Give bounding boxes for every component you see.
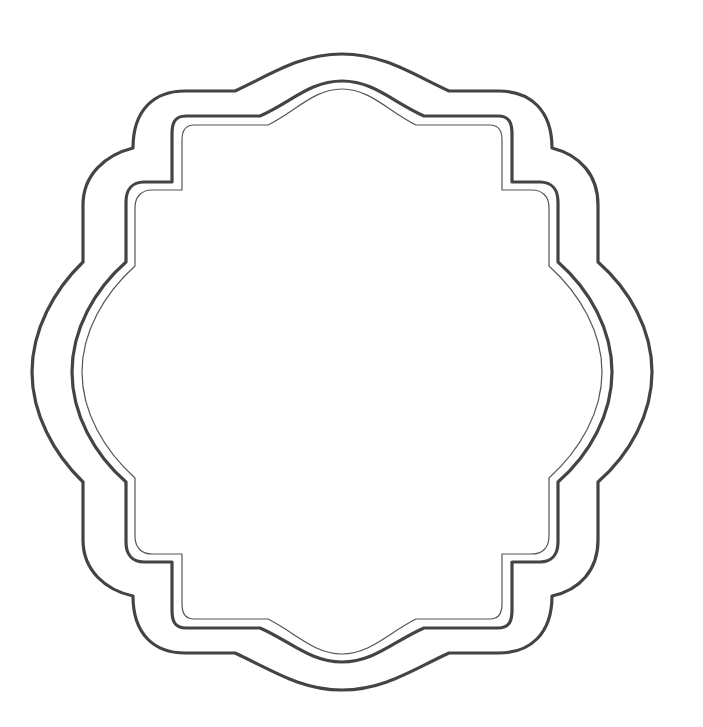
frame-outer-outline bbox=[32, 54, 652, 690]
frame-inner-outline bbox=[82, 89, 602, 654]
frame-middle-outline bbox=[72, 81, 612, 662]
decorative-frame bbox=[0, 0, 703, 727]
